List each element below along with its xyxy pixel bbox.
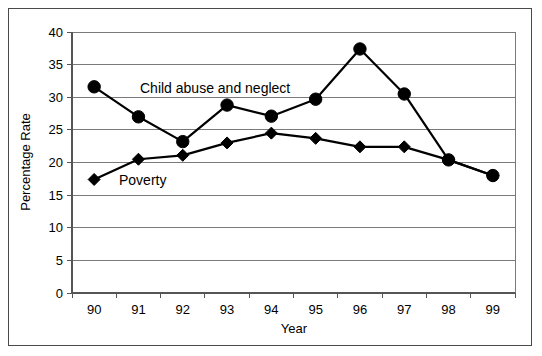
series-line-child-abuse (94, 49, 493, 176)
line-chart: 0510152025303540 90919293949596979899 Ch… (0, 0, 542, 356)
y-tick-label-10: 10 (49, 220, 63, 235)
data-point-poverty-97 (398, 141, 410, 153)
x-tick-label-94: 94 (264, 302, 278, 317)
data-point-child-abuse-94 (265, 110, 277, 122)
x-tick-label-95: 95 (308, 302, 322, 317)
data-point-child-abuse-92 (177, 135, 189, 147)
x-tick-label-99: 99 (486, 302, 500, 317)
data-point-child-abuse-95 (309, 93, 321, 105)
y-tick-label-40: 40 (49, 25, 63, 40)
series-annotation-child-abuse: Child abuse and neglect (140, 80, 290, 96)
x-tick-label-98: 98 (441, 302, 455, 317)
y-axis-ticks-group: 0510152025303540 (49, 25, 72, 301)
series-lines-group (94, 49, 493, 180)
data-point-child-abuse-93 (221, 99, 233, 111)
data-point-poverty-94 (265, 127, 277, 139)
data-point-poverty-93 (221, 137, 233, 149)
y-tick-label-25: 25 (49, 122, 63, 137)
data-point-child-abuse-90 (88, 81, 100, 93)
data-point-poverty-91 (132, 153, 144, 165)
x-axis-ticks-group: 90919293949596979899 (72, 293, 515, 317)
x-tick-label-93: 93 (220, 302, 234, 317)
y-tick-label-0: 0 (56, 286, 63, 301)
y-tick-label-20: 20 (49, 155, 63, 170)
x-tick-label-96: 96 (353, 302, 367, 317)
y-tick-label-30: 30 (49, 90, 63, 105)
data-point-child-abuse-91 (132, 111, 144, 123)
x-tick-label-97: 97 (397, 302, 411, 317)
data-point-child-abuse-97 (398, 88, 410, 100)
data-point-poverty-95 (310, 132, 322, 144)
data-point-poverty-96 (354, 141, 366, 153)
series-annotation-poverty: Poverty (119, 172, 166, 188)
chart-figure: 0510152025303540 90919293949596979899 Ch… (0, 0, 542, 356)
x-tick-label-91: 91 (131, 302, 145, 317)
data-point-poverty-90 (88, 173, 100, 185)
x-axis-title: Year (281, 321, 308, 336)
x-tick-label-90: 90 (87, 302, 101, 317)
y-tick-label-35: 35 (49, 57, 63, 72)
x-tick-label-92: 92 (176, 302, 190, 317)
y-tick-label-5: 5 (56, 253, 63, 268)
y-tick-label-15: 15 (49, 188, 63, 203)
data-point-child-abuse-96 (354, 43, 366, 55)
y-axis-title: Percentage Rate (18, 113, 33, 211)
data-point-poverty-92 (177, 149, 189, 161)
gridlines-group (72, 32, 515, 260)
